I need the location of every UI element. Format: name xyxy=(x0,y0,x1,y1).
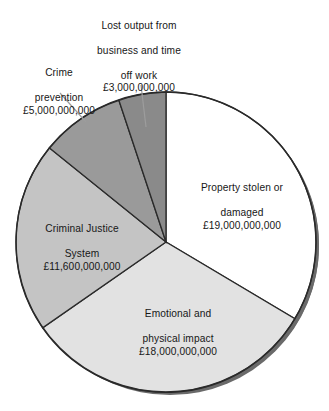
slice-value-crime-prevention: £5,000,000,000 xyxy=(4,105,114,117)
slice-label-property-line1: Property stolen or xyxy=(201,182,283,193)
slice-value-property: £19,000,000,000 xyxy=(182,220,302,232)
slice-label-property-line2: damaged xyxy=(220,207,263,218)
slice-label-lost-output-line3: off work xyxy=(121,70,157,81)
slice-label-crime-prevention-line1: Crime xyxy=(45,67,73,78)
slice-label-crime-prevention-line2: prevention xyxy=(35,92,84,103)
slice-value-emotional: £18,000,000,000 xyxy=(118,346,238,358)
slice-label-emotional-line2: physical impact xyxy=(142,333,213,344)
slice-label-crime-prevention: Crime prevention £5,000,000,000 xyxy=(4,55,114,129)
slice-label-cjs-line1: Criminal Justice xyxy=(45,223,119,234)
slice-label-emotional-and-physical-impact: Emotional and physical impact £18,000,00… xyxy=(118,296,238,370)
slice-label-criminal-justice-system: Criminal Justice System £11,600,000,000 xyxy=(22,211,142,285)
slice-label-cjs-line2: System xyxy=(65,248,100,259)
pie-chart-figure: Lost output from business and time off w… xyxy=(0,0,329,411)
slice-label-emotional-line1: Emotional and xyxy=(145,308,211,319)
slice-label-property-stolen-or-damaged: Property stolen or damaged £19,000,000,0… xyxy=(182,170,302,244)
slice-label-lost-output-line1: Lost output from xyxy=(101,20,176,31)
slice-value-cjs: £11,600,000,000 xyxy=(22,261,142,273)
